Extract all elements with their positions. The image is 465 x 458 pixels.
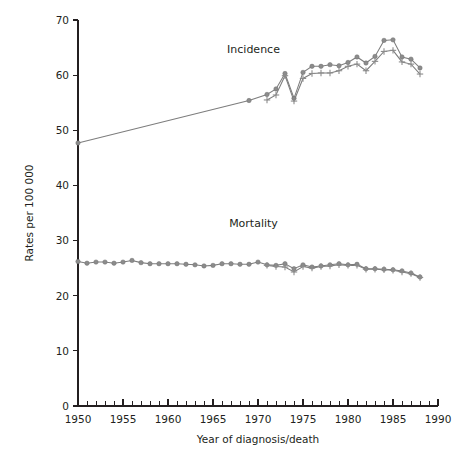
line-chart: 010203040506070 Rates per 100 000 195019… bbox=[0, 0, 465, 458]
data-point-marker bbox=[130, 258, 134, 262]
data-point-marker bbox=[373, 54, 377, 58]
data-point-marker bbox=[418, 66, 422, 70]
data-point-marker bbox=[309, 70, 315, 76]
data-point-marker bbox=[94, 260, 98, 264]
data-point-marker bbox=[238, 262, 242, 266]
data-point-marker bbox=[264, 262, 270, 268]
data-point-marker bbox=[327, 263, 333, 269]
data-point-marker bbox=[139, 260, 143, 264]
data-point-marker bbox=[318, 70, 324, 76]
data-point-marker bbox=[390, 267, 396, 273]
x-tick-label: 1955 bbox=[110, 413, 137, 425]
series-annotation-incidence: Incidence bbox=[227, 43, 280, 56]
data-point-marker bbox=[112, 261, 116, 265]
series-1 bbox=[264, 47, 423, 104]
y-tick-label: 10 bbox=[56, 345, 69, 357]
y-tick-label: 30 bbox=[56, 234, 69, 246]
data-point-marker bbox=[265, 92, 269, 96]
data-point-marker bbox=[76, 141, 80, 145]
data-point-marker bbox=[355, 55, 359, 59]
y-tick-label: 70 bbox=[56, 14, 69, 26]
series-line bbox=[267, 50, 420, 101]
y-axis-tick-labels: 010203040506070 bbox=[56, 14, 69, 412]
x-tick-label: 1950 bbox=[65, 413, 92, 425]
data-point-marker bbox=[103, 260, 107, 264]
x-tick-label: 1985 bbox=[380, 413, 407, 425]
data-point-marker bbox=[121, 260, 125, 264]
chart-container: 010203040506070 Rates per 100 000 195019… bbox=[0, 0, 465, 458]
data-point-marker bbox=[229, 262, 233, 266]
data-point-marker bbox=[273, 92, 279, 98]
data-point-marker bbox=[247, 98, 251, 102]
series-annotation-mortality: Mortality bbox=[229, 217, 278, 230]
data-point-marker bbox=[381, 267, 387, 273]
data-point-marker bbox=[327, 70, 333, 76]
data-point-marker bbox=[399, 269, 405, 275]
data-point-marker bbox=[336, 68, 342, 74]
data-point-marker bbox=[273, 263, 279, 269]
data-point-marker bbox=[175, 262, 179, 266]
x-tick-label: 1965 bbox=[200, 413, 227, 425]
data-point-marker bbox=[157, 262, 161, 266]
y-tick-label: 60 bbox=[56, 69, 69, 81]
data-point-marker bbox=[417, 274, 423, 280]
y-tick-label: 50 bbox=[56, 124, 69, 136]
data-point-marker bbox=[391, 38, 395, 42]
data-point-marker bbox=[291, 269, 297, 275]
y-axis-ticks bbox=[73, 20, 78, 406]
y-axis-group: 010203040506070 Rates per 100 000 bbox=[23, 14, 78, 412]
data-point-marker bbox=[220, 262, 224, 266]
data-point-marker bbox=[300, 75, 306, 81]
data-point-marker bbox=[354, 262, 360, 268]
data-point-marker bbox=[148, 262, 152, 266]
x-axis-group: 195019551960196519701975198019851990 Yea… bbox=[65, 399, 452, 445]
data-point-marker bbox=[337, 64, 341, 68]
series-2 bbox=[76, 258, 422, 279]
data-point-marker bbox=[264, 97, 270, 103]
data-point-marker bbox=[364, 61, 368, 65]
data-point-marker bbox=[345, 63, 351, 69]
data-point-marker bbox=[85, 261, 89, 265]
data-point-marker bbox=[345, 262, 351, 268]
data-point-marker bbox=[409, 57, 413, 61]
y-tick-label: 20 bbox=[56, 290, 69, 302]
x-axis-minor-ticks bbox=[78, 399, 438, 406]
series-annotations-layer: IncidenceMortality bbox=[227, 43, 280, 230]
data-point-marker bbox=[318, 263, 324, 269]
data-point-marker bbox=[211, 263, 215, 267]
x-tick-label: 1980 bbox=[335, 413, 362, 425]
y-tick-label: 0 bbox=[62, 400, 69, 412]
x-tick-label: 1990 bbox=[425, 413, 452, 425]
data-point-marker bbox=[202, 264, 206, 268]
data-point-marker bbox=[193, 263, 197, 267]
x-tick-label: 1975 bbox=[290, 413, 317, 425]
x-axis-title: Year of diagnosis/death bbox=[196, 433, 320, 445]
x-tick-label: 1970 bbox=[245, 413, 272, 425]
y-axis-title: Rates per 100 000 bbox=[23, 164, 35, 261]
data-point-marker bbox=[309, 265, 315, 271]
data-point-marker bbox=[319, 64, 323, 68]
data-point-marker bbox=[372, 266, 378, 272]
data-point-marker bbox=[382, 38, 386, 42]
x-tick-label: 1960 bbox=[155, 413, 182, 425]
data-point-marker bbox=[328, 62, 332, 66]
data-point-marker bbox=[256, 260, 260, 264]
y-tick-label: 40 bbox=[56, 179, 69, 191]
data-point-marker bbox=[301, 70, 305, 74]
x-axis-tick-labels: 195019551960196519701975198019851990 bbox=[65, 413, 452, 425]
data-point-marker bbox=[76, 259, 80, 263]
data-point-marker bbox=[166, 262, 170, 266]
data-point-marker bbox=[400, 55, 404, 59]
data-point-marker bbox=[247, 262, 251, 266]
data-point-marker bbox=[184, 262, 188, 266]
data-point-marker bbox=[336, 262, 342, 268]
data-series-layer bbox=[76, 38, 423, 281]
data-point-marker bbox=[408, 270, 414, 276]
data-point-marker bbox=[310, 64, 314, 68]
